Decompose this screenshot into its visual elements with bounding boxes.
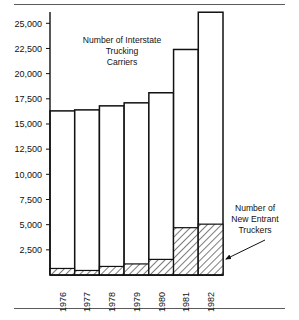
bar-new-entrant-1980 [149,259,174,275]
bar-1978 [99,106,124,275]
total-annotation-line-1: Number of Interstate [83,35,162,45]
x-tick-label-1977: 1977 [82,292,92,312]
total-series-annotation: Number of Interstate Trucking Carriers [83,35,162,67]
total-annotation-line-2: Trucking [106,46,139,56]
bar-1976 [50,111,75,275]
bar-total-1978 [99,106,124,275]
figure-container: 2,5005,0007,50010,00012,50015,00017,5002… [0,0,299,320]
y-tick-label-15000: 15,000 [14,119,42,129]
total-annotation-line-3: Carriers [107,57,138,67]
new-entrant-annotation-line-1: Number of [235,203,276,213]
y-tick-label-7500: 7,500 [19,195,42,205]
x-tick-label-1980: 1980 [157,292,167,312]
bar-new-entrant-1982 [198,224,223,275]
new-entrant-annotation-arrow [226,240,265,259]
y-tick-label-20000: 20,000 [14,69,42,79]
x-tick-label-1978: 1978 [107,292,117,312]
bar-total-1980 [149,93,174,275]
y-tick-label-12500: 12,500 [14,144,42,154]
bar-total-1976 [50,111,75,275]
bar-new-entrant-1981 [174,228,199,275]
y-tick-label-10000: 10,000 [14,170,42,180]
y-tick-label-25000: 25,000 [14,19,42,29]
bar-1980 [149,93,174,275]
new-entrant-annotation: Number of New Entrant Truckers [226,203,279,259]
x-tick-label-1976: 1976 [58,292,68,312]
bar-new-entrant-1978 [99,266,124,275]
x-axis-tick-labels: 1976197719781979198019811982 [58,292,216,312]
x-tick-label-1982: 1982 [206,292,216,312]
y-tick-label-5000: 5,000 [19,220,42,230]
y-tick-label-17500: 17,500 [14,94,42,104]
bar-total-1977 [75,110,100,275]
bar-chart: 2,5005,0007,50010,00012,50015,00017,5002… [0,0,299,320]
x-tick-label-1981: 1981 [181,292,191,312]
x-tick-label-1979: 1979 [132,292,142,312]
new-entrant-annotation-line-3: Truckers [238,225,271,235]
bar-1982 [198,12,223,275]
bar-new-entrant-1979 [124,264,149,275]
bar-total-1979 [124,103,149,275]
bar-new-entrant-1976 [50,268,75,275]
bar-1979 [124,103,149,275]
new-entrant-annotation-line-2: New Entrant [231,214,279,224]
bar-1981 [174,49,199,275]
y-tick-label-22500: 22,500 [14,44,42,54]
bar-1977 [75,110,100,275]
y-tick-label-2500: 2,500 [19,245,42,255]
y-axis-tick-labels: 2,5005,0007,50010,00012,50015,00017,5002… [14,19,42,256]
